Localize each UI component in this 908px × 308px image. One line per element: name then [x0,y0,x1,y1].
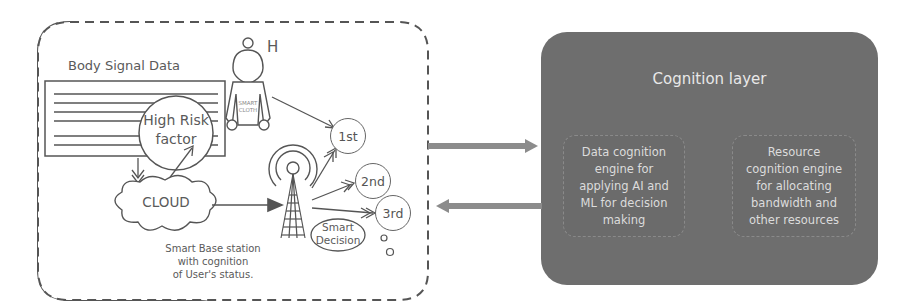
smart-cloth-label: SMART CLOTH [234,100,262,114]
priority-3rd: 3rd [375,195,411,231]
cognition-layer-title: Cognition layer [541,70,878,88]
high-risk-label: High Risk factor [139,111,213,149]
arrow-to-cognition [428,139,538,153]
data-cognition-engine: Data cognition engine for applying AI an… [563,135,685,237]
resource-cognition-engine: Resource cognition engine for allocating… [732,135,856,237]
arrow-from-cognition [436,199,542,213]
user-label: H [267,38,278,56]
priority-1st: 1st [330,118,366,154]
smart-decision-label: Smart Decision [311,221,365,247]
priority-2nd: 2nd [355,163,391,199]
body-signal-label: Body Signal Data [68,58,180,73]
base-station-caption: Smart Base station with cognition of Use… [148,242,278,281]
cloud-label: CLOUD [136,194,196,210]
